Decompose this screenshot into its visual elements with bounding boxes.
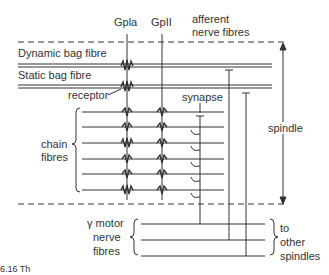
static-bag-label: Static bag fibre [18,69,91,81]
spindle-label: spindle [267,122,304,134]
other-brace [270,219,278,255]
motor-label-3: fibres [93,245,120,257]
motor-brace [130,219,138,255]
gpla-label: Gpla [114,16,137,28]
other-label-2: other [280,236,305,248]
dynamic-bag-label: Dynamic bag fibre [18,47,107,59]
afferent-label-2: nerve fibres [192,26,249,38]
afferent-label-1: afferent [192,13,229,25]
other-label-3: spindles [280,250,320,262]
gpII-label: GpII [151,16,172,28]
chain-label-2: fibres [41,151,68,163]
figure-caption-fragment: 6.16 Th [0,263,30,275]
chain-brace [72,108,80,192]
synapse-label: synapse [182,91,223,103]
motor-label-1: γ motor [87,217,124,229]
motor-label-2: nerve [93,231,121,243]
other-label-1: to [280,222,289,234]
chain-label-1: chain [41,138,67,150]
receptor-label: receptor [68,89,108,101]
